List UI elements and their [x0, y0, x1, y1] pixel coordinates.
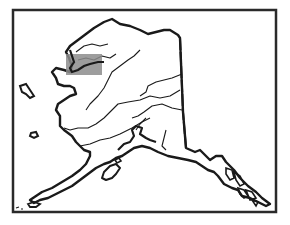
island-st-lawrence [20, 84, 34, 98]
river-copper [162, 130, 166, 150]
island-small [115, 158, 121, 163]
island-aleutian-tip [16, 207, 23, 209]
island-kodiak [102, 164, 120, 180]
island-nunivak [30, 132, 38, 138]
island-aleutian [28, 202, 40, 207]
river-tanana [132, 104, 182, 118]
alaska-map [0, 0, 290, 225]
river-noatak [76, 44, 108, 52]
river-yukon [64, 90, 180, 130]
river-kuskokwim [80, 118, 150, 146]
